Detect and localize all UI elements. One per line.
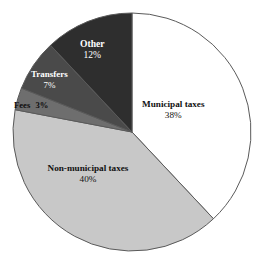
pie-chart-canvas — [0, 0, 257, 265]
pie-chart: Municipal taxes 38% Non-municipal taxes … — [0, 0, 257, 265]
pie-slices-group — [13, 13, 251, 251]
